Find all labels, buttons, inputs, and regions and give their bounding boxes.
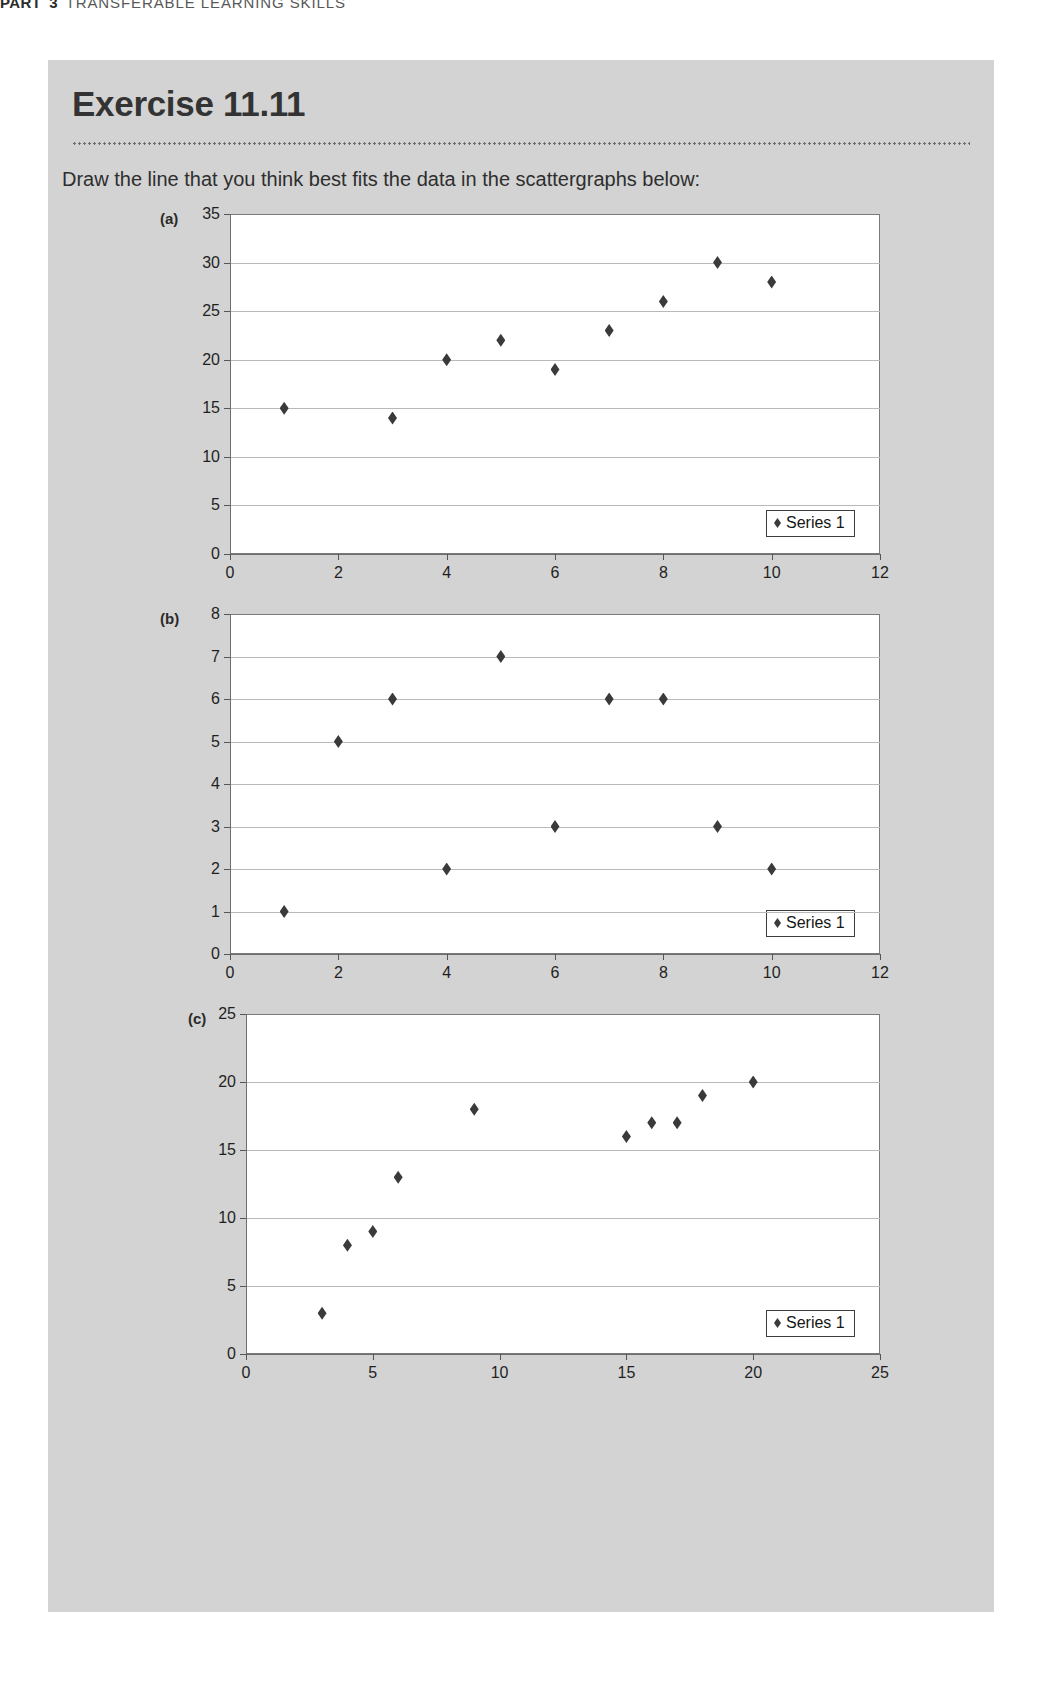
- y-axis-tick-label: 15: [200, 1141, 236, 1159]
- y-axis-line: [230, 214, 231, 554]
- gridline-y: [230, 408, 880, 409]
- x-axis-tick-mark: [230, 954, 231, 960]
- x-axis-tick-label: 12: [871, 564, 889, 582]
- x-axis-tick-mark: [772, 954, 773, 960]
- gridline-y: [246, 1150, 880, 1151]
- x-axis-tick-label: 2: [334, 564, 343, 582]
- x-axis-line: [246, 1354, 880, 1355]
- y-axis-tick-label: 10: [200, 1209, 236, 1227]
- y-axis-tick-label: 0: [200, 1345, 236, 1363]
- page-root: PART 3 TRANSFERABLE LEARNING SKILLS Exer…: [0, 0, 1042, 1687]
- x-axis-tick-label: 2: [334, 964, 343, 982]
- y-axis-tick-label: 2: [184, 860, 220, 878]
- gridline-y: [230, 505, 880, 506]
- chart-b-label: (b): [160, 610, 179, 627]
- running-header-title: TRANSFERABLE LEARNING SKILLS: [66, 0, 346, 11]
- gridline-y: [246, 1082, 880, 1083]
- y-axis-tick-label: 30: [184, 254, 220, 272]
- gridline-y: [246, 1218, 880, 1219]
- y-axis-tick-label: 0: [184, 545, 220, 563]
- chart-c-legend-label: Series 1: [786, 1314, 845, 1332]
- x-axis-tick-label: 0: [226, 964, 235, 982]
- chart-a-label: (a): [160, 210, 178, 227]
- x-axis-tick-label: 12: [871, 964, 889, 982]
- chart-b-legend-label: Series 1: [786, 914, 845, 932]
- y-axis-tick-label: 25: [200, 1005, 236, 1023]
- dotted-divider: [72, 142, 970, 145]
- gridline-y: [246, 1286, 880, 1287]
- series-marker-icon: [774, 1318, 781, 1328]
- y-axis-tick-label: 3: [184, 818, 220, 836]
- chart-c-legend: Series 1: [766, 1310, 855, 1337]
- y-axis-tick-label: 0: [184, 945, 220, 963]
- chart-a-legend: Series 1: [766, 510, 855, 537]
- x-axis-tick-mark: [338, 954, 339, 960]
- chart-a: (a) Series 1 05101520253035024681012: [48, 208, 994, 628]
- x-axis-tick-mark: [753, 1354, 754, 1360]
- x-axis-tick-mark: [338, 554, 339, 560]
- x-axis-tick-label: 10: [491, 1364, 509, 1382]
- x-axis-tick-label: 25: [871, 1364, 889, 1382]
- y-axis-tick-label: 5: [184, 496, 220, 514]
- gridline-y: [230, 657, 880, 658]
- series-marker-icon: [774, 518, 781, 528]
- x-axis-tick-label: 0: [226, 564, 235, 582]
- y-axis-tick-label: 25: [184, 302, 220, 320]
- gridline-y: [230, 742, 880, 743]
- x-axis-tick-mark: [447, 954, 448, 960]
- y-axis-line: [230, 614, 231, 954]
- y-axis-tick-label: 8: [184, 605, 220, 623]
- x-axis-tick-mark: [663, 954, 664, 960]
- x-axis-tick-label: 6: [551, 964, 560, 982]
- x-axis-tick-mark: [880, 554, 881, 560]
- y-axis-tick-label: 20: [184, 351, 220, 369]
- chart-b: (b) Series 1 012345678024681012: [48, 608, 994, 1028]
- gridline-y: [230, 311, 880, 312]
- chart-a-legend-label: Series 1: [786, 514, 845, 532]
- x-axis-tick-label: 10: [763, 964, 781, 982]
- chart-c-plot-area: [246, 1014, 880, 1354]
- series-marker-icon: [774, 918, 781, 928]
- x-axis-tick-mark: [663, 554, 664, 560]
- running-header-part-number: 3: [49, 0, 57, 11]
- y-axis-tick-label: 4: [184, 775, 220, 793]
- x-axis-tick-mark: [626, 1354, 627, 1360]
- x-axis-tick-label: 0: [242, 1364, 251, 1382]
- y-axis-tick-label: 6: [184, 690, 220, 708]
- x-axis-tick-mark: [500, 1354, 501, 1360]
- x-axis-tick-mark: [555, 554, 556, 560]
- x-axis-tick-label: 8: [659, 964, 668, 982]
- x-axis-tick-mark: [555, 954, 556, 960]
- gridline-y: [230, 699, 880, 700]
- gridline-y: [230, 912, 880, 913]
- y-axis-tick-label: 15: [184, 399, 220, 417]
- x-axis-tick-mark: [880, 1354, 881, 1360]
- x-axis-tick-label: 4: [442, 964, 451, 982]
- exercise-panel: Exercise 11.11 Draw the line that you th…: [48, 60, 994, 1612]
- y-axis-tick-label: 20: [200, 1073, 236, 1091]
- y-axis-tick-label: 10: [184, 448, 220, 466]
- chart-b-legend: Series 1: [766, 910, 855, 937]
- running-header-part-word: PART: [0, 0, 41, 11]
- x-axis-tick-mark: [880, 954, 881, 960]
- y-axis-tick-label: 5: [184, 733, 220, 751]
- exercise-title: Exercise 11.11: [72, 84, 305, 124]
- gridline-y: [230, 869, 880, 870]
- x-axis-tick-mark: [373, 1354, 374, 1360]
- y-axis-tick-label: 5: [200, 1277, 236, 1295]
- y-axis-tick-label: 35: [184, 205, 220, 223]
- x-axis-tick-mark: [772, 554, 773, 560]
- gridline-y: [230, 457, 880, 458]
- x-axis-tick-label: 4: [442, 564, 451, 582]
- chart-c: (c) Series 1 05101520250510152025: [48, 1008, 994, 1428]
- x-axis-tick-label: 15: [617, 1364, 635, 1382]
- exercise-instruction: Draw the line that you think best fits t…: [62, 168, 700, 191]
- x-axis-tick-mark: [246, 1354, 247, 1360]
- x-axis-tick-mark: [230, 554, 231, 560]
- running-header: PART 3 TRANSFERABLE LEARNING SKILLS: [0, 0, 346, 13]
- x-axis-tick-label: 5: [368, 1364, 377, 1382]
- x-axis-tick-label: 6: [551, 564, 560, 582]
- gridline-y: [230, 360, 880, 361]
- y-axis-tick-label: 7: [184, 648, 220, 666]
- x-axis-tick-label: 20: [744, 1364, 762, 1382]
